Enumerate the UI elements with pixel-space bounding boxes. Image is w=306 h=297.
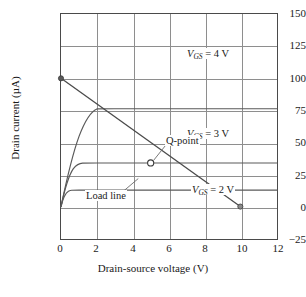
vgs-subscript: GS — [193, 52, 202, 61]
x-tick-label: 2 — [81, 243, 111, 254]
q-point-text: Q-point — [165, 135, 200, 146]
load-line-endpoint-marker — [238, 204, 243, 209]
plot-area: VGS = 4 V VGS = 3 V VGS = 2 V Q-point Lo… — [60, 13, 278, 240]
x-tick-label: 10 — [227, 243, 257, 254]
y-axis-title: Drain current (µA) — [9, 43, 21, 193]
x-axis-title: Drain-source voltage (V) — [0, 262, 306, 274]
vgs-value: = 4 V — [203, 48, 229, 59]
x-tick-label: 0 — [45, 243, 75, 254]
vgs-value: = 3 V — [203, 128, 229, 139]
q-point-marker — [148, 160, 154, 166]
annotation-vgs-2v: VGS = 2 V — [191, 184, 235, 196]
curve-layer — [61, 14, 277, 239]
x-tick-label: 8 — [190, 243, 220, 254]
annotation-load-line: Load line — [85, 190, 127, 201]
chart-figure: 150 125 100 75 50 25 0 −25 0 2 4 6 8 10 … — [0, 0, 306, 297]
x-tick-label: 12 — [263, 243, 293, 254]
load-line-endpoint-marker — [58, 76, 63, 81]
load-line-text: Load line — [85, 190, 127, 201]
vgs-value: = 2 V — [208, 184, 234, 195]
annotation-q-point: Q-point — [165, 135, 200, 146]
x-tick-label: 4 — [118, 243, 148, 254]
x-tick-label: 6 — [154, 243, 184, 254]
vgs-subscript: GS — [198, 188, 207, 197]
annotation-vgs-4v: VGS = 4 V — [186, 48, 230, 60]
